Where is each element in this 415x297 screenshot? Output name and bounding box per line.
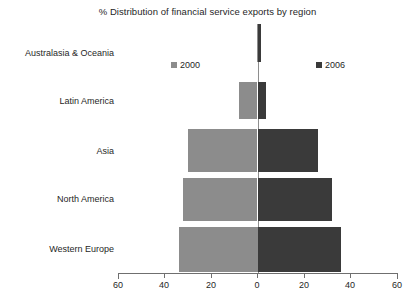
x-axis-label: 40 — [345, 280, 355, 290]
x-axis-label: 20 — [206, 280, 216, 290]
legend-item-2000[interactable]: 2000 — [171, 60, 200, 70]
x-axis-tick — [257, 273, 258, 278]
bar-2006[interactable] — [258, 178, 332, 221]
legend-label-2000: 2000 — [180, 60, 200, 70]
bar-row — [118, 178, 397, 221]
x-axis-tick — [211, 273, 212, 278]
x-axis-label: 60 — [392, 280, 402, 290]
bar-row — [118, 227, 397, 272]
chart-container: % Distribution of financial service expo… — [0, 0, 415, 297]
category-label-north-america: North America — [57, 194, 114, 204]
bar-2000[interactable] — [179, 227, 258, 272]
x-axis-tick — [164, 273, 165, 278]
bar-2000[interactable] — [188, 129, 258, 172]
plot-area — [118, 24, 397, 273]
chart-title: % Distribution of financial service expo… — [0, 6, 415, 17]
bar-2006[interactable] — [258, 129, 318, 172]
legend-item-2006[interactable]: 2006 — [316, 60, 345, 70]
bar-row — [118, 24, 397, 62]
x-axis-tick — [397, 273, 398, 279]
bar-row — [118, 82, 397, 119]
x-axis-label: 0 — [254, 280, 259, 290]
bar-2006[interactable] — [258, 24, 262, 62]
bar-2000[interactable] — [183, 178, 257, 221]
x-axis-label: 20 — [299, 280, 309, 290]
category-label-australasia-oceania: Australasia & Oceania — [25, 48, 114, 58]
legend-swatch-2006-icon — [316, 62, 322, 68]
bar-2006[interactable] — [258, 82, 266, 119]
category-label-western-europe: Western Europe — [49, 244, 114, 254]
x-axis-tick — [118, 273, 119, 279]
bar-2006[interactable] — [258, 227, 342, 272]
x-axis-tick — [350, 273, 351, 278]
x-axis-label: 40 — [159, 280, 169, 290]
legend-label-2006: 2006 — [325, 60, 345, 70]
x-axis-label: 60 — [113, 280, 123, 290]
category-label-asia: Asia — [96, 146, 114, 156]
category-label-latin-america: Latin America — [59, 96, 114, 106]
x-axis-tick — [304, 273, 305, 278]
legend-swatch-2000-icon — [171, 62, 177, 68]
bar-2000[interactable] — [239, 82, 258, 119]
bar-row — [118, 129, 397, 172]
